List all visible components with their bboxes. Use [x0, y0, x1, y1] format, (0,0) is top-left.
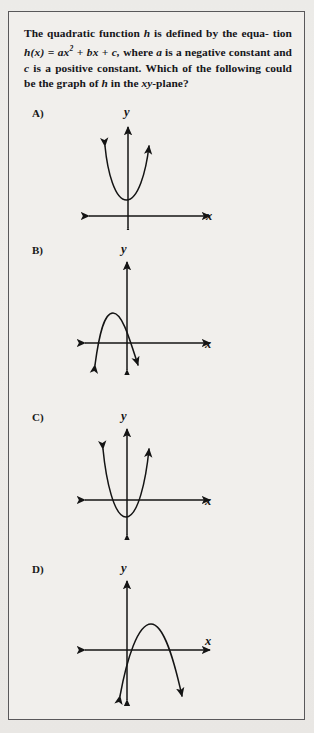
choice-c-graph: [75, 422, 225, 540]
question-line3-b: is a positive constant. Which of the: [29, 62, 211, 74]
choice-c-letter: C): [32, 411, 44, 423]
choice-a-parabola: [105, 146, 149, 200]
choice-c-parabola: [103, 449, 149, 517]
question-line1-a: The quadratic function: [24, 27, 144, 39]
choice-b-letter: B): [32, 244, 43, 256]
choice-a-y-axis-label: y: [124, 105, 130, 120]
question-line3-a: constant and: [229, 46, 292, 58]
eq-plus-1: +: [74, 46, 87, 58]
question-page-frame: The quadratic function h is defined by t…: [8, 11, 305, 720]
choice-b-graph: [75, 255, 225, 375]
choice-d-letter: D): [32, 563, 44, 575]
choice-d-parabola: [120, 624, 182, 696]
choice-d-graph: [75, 574, 225, 706]
question-stem: The quadratic function h is defined by t…: [24, 26, 292, 91]
eq-equals: =: [44, 46, 57, 58]
eq-plus-2: +: [99, 46, 112, 58]
choice-a-graph: [79, 120, 224, 230]
question-var-xy: xy: [141, 77, 152, 89]
question-line4-b: in the: [108, 77, 142, 89]
eq-ax: ax: [58, 46, 70, 58]
choice-b-parabola: [95, 313, 138, 365]
question-line2-pre: tion: [273, 27, 292, 39]
choice-a-letter: A): [32, 107, 44, 119]
question-line4-c: -plane?: [152, 77, 188, 89]
eq-bx: bx: [87, 46, 99, 58]
question-equation: h(x) = ax2 + bx + c,: [24, 46, 120, 58]
question-line1-b: is defined by the equa-: [150, 27, 269, 39]
question-line2-post-a: where: [120, 46, 156, 58]
question-line2-post-b: is a negative: [162, 46, 226, 58]
eq-c: c,: [112, 46, 120, 58]
